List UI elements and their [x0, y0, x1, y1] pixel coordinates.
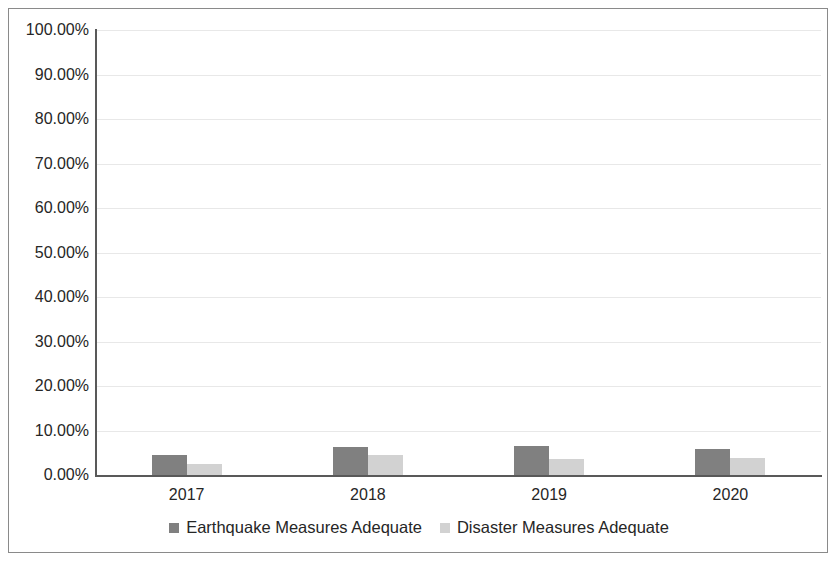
y-axis-tick-label: 20.00% — [9, 378, 89, 394]
y-axis-tick-label: 0.00% — [9, 467, 89, 483]
bar[interactable] — [152, 455, 187, 475]
chart-legend: Earthquake Measures AdequateDisaster Mea… — [9, 518, 829, 537]
x-axis-tick-label: 2019 — [489, 486, 609, 504]
bar[interactable] — [368, 455, 403, 475]
chart-frame: 100.00%90.00%80.00%70.00%60.00%50.00%40.… — [8, 8, 828, 553]
y-axis-tick-label: 90.00% — [9, 67, 89, 83]
bar-group — [514, 30, 584, 475]
y-axis-tick-label: 80.00% — [9, 111, 89, 127]
bar[interactable] — [695, 449, 730, 475]
bar[interactable] — [730, 458, 765, 475]
bar[interactable] — [187, 464, 222, 475]
bar-group — [333, 30, 403, 475]
y-axis-tick-label: 50.00% — [9, 245, 89, 261]
bar-group — [695, 30, 765, 475]
x-axis-tick-label: 2020 — [670, 486, 790, 504]
legend-swatch-icon — [169, 523, 179, 533]
legend-item[interactable]: Disaster Measures Adequate — [440, 518, 669, 537]
x-axis-line — [95, 475, 822, 477]
y-axis-tick-label: 100.00% — [9, 22, 89, 38]
bar[interactable] — [333, 447, 368, 475]
x-axis-tick-label: 2017 — [127, 486, 247, 504]
y-axis-tick-label: 40.00% — [9, 289, 89, 305]
bar[interactable] — [549, 459, 584, 475]
y-axis-tick-label: 60.00% — [9, 200, 89, 216]
bar-group — [152, 30, 222, 475]
y-axis-tick-label: 70.00% — [9, 156, 89, 172]
plot-area — [96, 30, 821, 475]
x-axis-tick-label: 2018 — [308, 486, 428, 504]
legend-label: Disaster Measures Adequate — [457, 518, 669, 537]
y-axis-tick-label: 30.00% — [9, 334, 89, 350]
bar[interactable] — [514, 446, 549, 475]
legend-item[interactable]: Earthquake Measures Adequate — [169, 518, 422, 537]
legend-label: Earthquake Measures Adequate — [186, 518, 422, 537]
y-axis-tick-label: 10.00% — [9, 423, 89, 439]
y-axis-line — [95, 29, 97, 477]
legend-swatch-icon — [440, 523, 450, 533]
y-axis-labels: 100.00%90.00%80.00%70.00%60.00%50.00%40.… — [9, 9, 89, 554]
